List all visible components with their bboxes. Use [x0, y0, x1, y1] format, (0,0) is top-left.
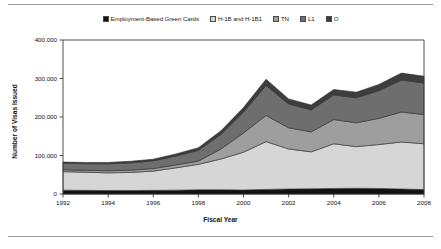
- x-axis-title: Fiscal Year: [0, 216, 441, 223]
- y-axis-tick-label: 200,000: [35, 113, 58, 120]
- y-axis-title: Number of Visas Issued: [11, 62, 18, 182]
- x-axis-tick-label: 2004: [327, 199, 341, 206]
- y-axis-tick-label: 300,000: [35, 75, 58, 82]
- x-axis-tick-label: 2000: [237, 199, 251, 206]
- x-axis-tick-label: 1996: [146, 199, 160, 206]
- x-axis-tick-label: 1994: [101, 199, 115, 206]
- x-axis-tick-label: 2006: [372, 199, 386, 206]
- x-axis-tick-label: 1992: [56, 199, 70, 206]
- y-axis-tick-label: 100,000: [35, 152, 58, 159]
- chart-plot-area: 0100,000200,000300,000400,00019921994199…: [0, 0, 441, 249]
- x-axis-tick-label: 2008: [417, 199, 431, 206]
- y-axis-tick-label: 400,000: [35, 36, 58, 43]
- y-axis-tick-label: 0: [54, 190, 58, 197]
- stacked-area-chart: 0100,000200,000300,000400,00019921994199…: [0, 0, 441, 249]
- x-axis-tick-label: 1998: [191, 199, 205, 206]
- x-axis-tick-label: 2002: [282, 199, 296, 206]
